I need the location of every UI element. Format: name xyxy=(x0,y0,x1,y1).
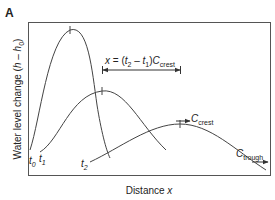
label-t0: t0 xyxy=(29,155,36,168)
displacement-equation: x = (t2 – t1)Ccrest xyxy=(104,55,175,68)
panel-label: A xyxy=(5,6,14,20)
wave-curve-t0 xyxy=(30,29,110,158)
plot-frame xyxy=(29,23,271,176)
crest-velocity-label: Ccrest xyxy=(191,113,213,126)
wave-curve-t1 xyxy=(40,91,166,152)
water-wave-diagram: A Water level change (h – h0) Distance x… xyxy=(0,0,275,200)
x-axis-label: Distance x xyxy=(126,185,174,196)
y-axis-label: Water level change (h – h0) xyxy=(12,39,25,160)
wave-curve-t2 xyxy=(90,124,266,170)
trough-velocity-label: Ctrough xyxy=(236,148,263,162)
label-t2: t2 xyxy=(81,158,88,171)
label-t1: t1 xyxy=(39,153,46,166)
